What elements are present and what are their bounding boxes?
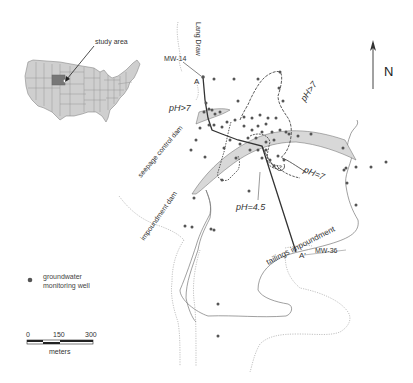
legend-well-icon (28, 278, 33, 283)
wyoming-highlight (52, 75, 65, 85)
ph-gt7-left-label: pH>7 (168, 103, 192, 113)
north-label: N (384, 64, 393, 79)
scale-tick-150: 150 (53, 331, 65, 338)
drainage-lines (119, 22, 350, 372)
scale-bar (27, 340, 93, 344)
lang-draw-label: Lang Draw (194, 22, 202, 57)
map-figure: study area N (0, 0, 413, 383)
legend: groundwater monitoring well (43, 272, 90, 290)
ph-gt7-right-label: pH>7 (298, 79, 320, 104)
legend-line-2: monitoring well (43, 281, 90, 290)
us-inset-map: study area (25, 38, 140, 122)
ph-eq45-label: pH=4.5 (235, 202, 266, 212)
legend-line-1: groundwater (43, 272, 90, 281)
impoundment-boundary (180, 120, 358, 322)
mw14-leader (183, 62, 201, 76)
scale-tick-300: 300 (85, 331, 97, 338)
a-label: A (194, 77, 200, 86)
study-area-label: study area (95, 38, 128, 46)
scale-tick-0: 0 (26, 331, 30, 338)
north-arrow: N (370, 40, 393, 89)
seepage-dam-label: seepage control dam (136, 124, 184, 179)
a-prime-label: A' (299, 251, 306, 260)
ph-eq7-label: pH=7 (301, 164, 327, 182)
ph45-leader (258, 172, 260, 200)
impoundment-dam-label: impoundment dam (139, 190, 179, 242)
mw14-label: MW-14 (164, 55, 187, 62)
scale-unit: meters (49, 348, 71, 355)
us-outline (25, 60, 140, 122)
mw36-label: MW-36 (315, 247, 338, 254)
